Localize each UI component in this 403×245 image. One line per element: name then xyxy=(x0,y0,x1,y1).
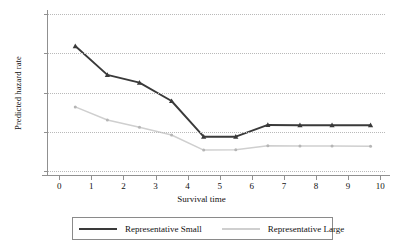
y-tick-mark xyxy=(44,93,48,94)
x-tick-label: 4 xyxy=(178,181,198,191)
chart-legend: Representative Small Representative Larg… xyxy=(72,217,333,240)
data-point-marker xyxy=(170,134,173,137)
y-tick-mark xyxy=(44,53,48,54)
legend-item-representative-large[interactable]: Representative Large xyxy=(202,218,345,239)
x-tick-label: 0 xyxy=(49,181,69,191)
y-tick-mark xyxy=(44,14,48,15)
plot-area: .03.06.09.12 xyxy=(48,14,385,171)
x-tick-label: 10 xyxy=(370,181,390,191)
hazard-rate-chart: Predicted hazard rate .03.06.09.12 01234… xyxy=(0,0,403,245)
x-tick-label: 1 xyxy=(81,181,101,191)
x-tick-mark xyxy=(188,175,189,180)
x-tick-mark xyxy=(348,175,349,180)
legend-label-small: Representative Small xyxy=(125,224,202,234)
legend-swatch-small-icon xyxy=(79,228,117,230)
x-tick-mark xyxy=(380,175,381,180)
data-point-marker xyxy=(202,149,205,152)
data-point-marker xyxy=(234,148,237,151)
x-tick-label: 6 xyxy=(242,181,262,191)
x-tick-label: 8 xyxy=(306,181,326,191)
data-point-marker xyxy=(331,145,334,148)
x-axis-line xyxy=(42,175,390,176)
gridline-y xyxy=(48,171,385,172)
data-point-marker xyxy=(298,145,301,148)
data-point-marker xyxy=(266,144,269,147)
y-tick-mark xyxy=(44,171,48,172)
x-tick-label: 5 xyxy=(210,181,230,191)
x-tick-mark xyxy=(123,175,124,180)
gridline-y xyxy=(48,93,385,94)
y-axis-title: Predicted hazard rate xyxy=(13,23,23,163)
x-tick-label: 9 xyxy=(338,181,358,191)
x-tick-mark xyxy=(156,175,157,180)
data-point-marker xyxy=(106,118,109,121)
data-point-marker xyxy=(74,105,77,108)
x-tick-mark xyxy=(284,175,285,180)
y-tick-mark xyxy=(44,132,48,133)
x-tick-label: 7 xyxy=(274,181,294,191)
x-tick-label: 2 xyxy=(113,181,133,191)
data-point-marker xyxy=(369,145,372,148)
data-point-marker xyxy=(138,126,141,129)
data-point-marker xyxy=(73,43,78,48)
x-tick-mark xyxy=(316,175,317,180)
x-tick-mark xyxy=(220,175,221,180)
x-tick-label: 3 xyxy=(146,181,166,191)
legend-label-large: Representative Large xyxy=(268,224,345,234)
x-tick-mark xyxy=(91,175,92,180)
x-axis-title: Survival time xyxy=(0,194,403,204)
gridline-y xyxy=(48,53,385,54)
gridline-y xyxy=(48,14,385,15)
series-line xyxy=(75,107,370,150)
x-tick-mark xyxy=(59,175,60,180)
gridline-y xyxy=(48,132,385,133)
x-tick-mark xyxy=(252,175,253,180)
legend-item-representative-small[interactable]: Representative Small xyxy=(73,218,202,239)
legend-swatch-large-icon xyxy=(222,228,260,230)
